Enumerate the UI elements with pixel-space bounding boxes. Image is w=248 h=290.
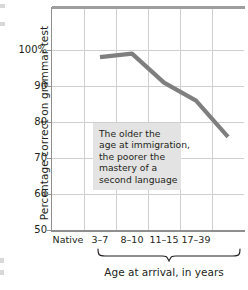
axis-group-brace bbox=[96, 248, 242, 262]
y-tick-label: 70 bbox=[3, 152, 47, 163]
x-axis-title: Age at arrival, in years bbox=[80, 266, 248, 278]
data-series-line bbox=[52, 7, 244, 231]
annotation-line-1: The older the bbox=[99, 128, 177, 139]
x-tick-label-17-39: 17–39 bbox=[173, 234, 219, 245]
y-tick-label: 90 bbox=[3, 80, 47, 91]
y-tick-label: 60 bbox=[3, 188, 47, 199]
edge-artifact bbox=[0, 258, 4, 263]
chart-figure: Percentage correct on grammar test 100% … bbox=[0, 0, 248, 290]
y-tick-label: 100% bbox=[3, 44, 47, 55]
y-tick-label: 80 bbox=[3, 116, 47, 127]
edge-artifact bbox=[0, 22, 5, 26]
annotation-line-4: mastery of a bbox=[99, 162, 177, 173]
annotation-callout: The older the age at immigration, the po… bbox=[93, 123, 181, 190]
edge-artifact bbox=[0, 4, 5, 8]
y-tick-label: 50 bbox=[3, 224, 47, 235]
annotation-line-2: age at immigration, bbox=[99, 139, 177, 150]
edge-artifact bbox=[0, 270, 4, 275]
annotation-line-5: second language bbox=[99, 174, 177, 185]
annotation-line-3: the poorer the bbox=[99, 151, 177, 162]
